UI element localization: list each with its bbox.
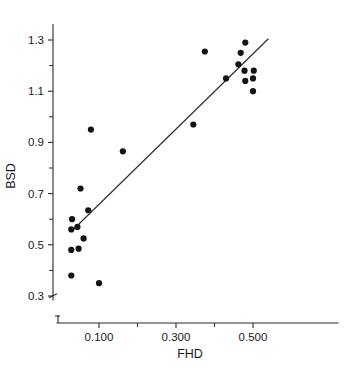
x-axis-title: FHD [177,347,203,361]
y-axis: 0.30.50.70.91.11.3 [28,25,57,302]
data-point [120,148,126,154]
data-point [223,75,229,81]
chart-canvas: 0.30.50.70.91.11.3 0.1000.3000.500 FHD B… [0,0,346,371]
data-point [251,68,257,74]
data-point [241,68,247,74]
data-point [85,207,91,213]
data-point [235,61,241,67]
y-tick-label: 0.7 [28,188,44,200]
data-point [190,121,196,127]
data-point [81,235,87,241]
data-point [96,280,102,286]
data-point [242,39,248,45]
x-tick-label: 0.100 [85,331,114,343]
y-tick-label: 0.9 [28,136,44,148]
data-point [74,224,80,230]
data-point [68,272,74,278]
x-axis: 0.1000.3000.500 [55,315,338,343]
data-point [250,75,256,81]
data-point [75,246,81,252]
x-tick-label: 0.500 [239,331,268,343]
data-point [250,88,256,94]
data-point [77,185,83,191]
data-points [68,39,257,286]
data-point [69,216,75,222]
regression-line [72,39,268,231]
regression-line-path [72,39,268,231]
data-point [68,226,74,232]
scatter-plot-figure: 0.30.50.70.91.11.3 0.1000.3000.500 FHD B… [0,0,346,371]
data-point [238,50,244,56]
x-tick-label: 0.300 [162,331,191,343]
data-point [68,247,74,253]
data-point [88,127,94,133]
y-tick-label: 1.1 [28,85,44,97]
y-tick-label: 0.3 [28,290,44,302]
data-point [202,48,208,54]
y-tick-label: 0.5 [28,239,44,251]
x-axis-break-mark [55,315,60,323]
y-tick-label: 1.3 [28,34,44,46]
y-axis-title: BSD [4,163,18,189]
data-point [242,78,248,84]
